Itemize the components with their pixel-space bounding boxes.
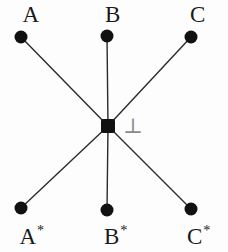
node-label-c: C: [190, 3, 206, 26]
label-superscript: *: [120, 222, 128, 238]
node-label-b: B: [105, 3, 121, 26]
label-superscript: *: [203, 222, 211, 238]
node-c: [185, 31, 198, 44]
node-cs: [185, 203, 198, 216]
label-text: C: [190, 2, 206, 27]
diagram-canvas: ABCA*B*C* ⊥: [0, 0, 228, 252]
edge-O-Bs: [107, 126, 108, 210]
node-a: [15, 31, 28, 44]
perpendicular-symbol: ⊥: [123, 116, 143, 137]
node-bs: [101, 204, 114, 217]
node-label-as: A*: [19, 225, 44, 248]
edge-O-Cs: [108, 126, 191, 209]
label-text: A: [19, 224, 36, 249]
node-label-cs: C*: [187, 225, 211, 248]
label-text: A: [22, 2, 39, 27]
label-text: B: [104, 224, 120, 249]
label-text: B: [105, 2, 121, 27]
label-text: C: [187, 224, 203, 249]
edge-O-B: [107, 36, 108, 126]
edge-O-As: [21, 126, 108, 208]
node-label-bs: B*: [104, 225, 128, 248]
edge-O-C: [108, 37, 191, 126]
node-b: [101, 30, 114, 43]
node-label-a: A: [22, 3, 39, 26]
node-o: [101, 119, 115, 133]
label-superscript: *: [37, 222, 45, 238]
node-as: [15, 202, 28, 215]
edge-O-A: [21, 37, 108, 126]
